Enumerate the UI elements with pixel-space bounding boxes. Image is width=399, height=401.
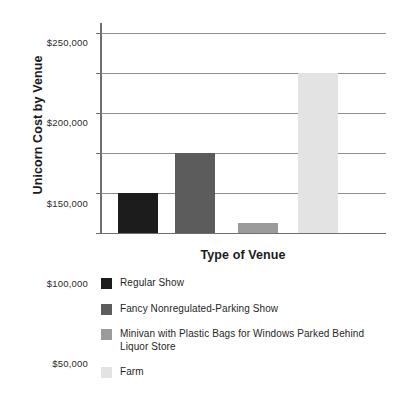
y-axis-tick-label: $100,000 <box>47 277 88 288</box>
legend-item-label: Fancy Nonregulated-Parking Show <box>120 303 278 316</box>
y-axis-tick-label: $250,000 <box>47 37 88 48</box>
bar <box>298 73 338 233</box>
bar <box>238 223 278 233</box>
x-axis-line <box>99 233 386 235</box>
y-axis-tick: $200,000 <box>96 73 101 74</box>
y-axis-tick: $250,000 <box>96 33 101 34</box>
legend-item[interactable]: Fancy Nonregulated-Parking Show <box>101 303 391 316</box>
x-axis-title: Type of Venue <box>101 248 385 262</box>
bar <box>118 193 158 233</box>
chart-page: Unicorn Cost by Venue $250,000$200,000$1… <box>0 0 399 401</box>
legend-swatch <box>101 329 112 340</box>
legend-item[interactable]: Farm <box>101 366 391 379</box>
legend-item[interactable]: Regular Show <box>101 277 391 290</box>
bar-chart: Unicorn Cost by Venue $250,000$200,000$1… <box>0 0 399 270</box>
gridline <box>101 113 386 114</box>
legend-item-label: Minivan with Plastic Bags for Windows Pa… <box>120 328 391 353</box>
y-axis-tick: $100,000 <box>96 153 101 154</box>
gridline <box>101 73 386 74</box>
gridline <box>101 33 386 34</box>
plot-area: $250,000$200,000$150,000$100,000$50,0000 <box>101 23 386 233</box>
y-axis-tick-label: $50,000 <box>52 357 88 368</box>
legend-item-label: Farm <box>120 366 144 379</box>
y-axis-tick-label: $200,000 <box>47 117 88 128</box>
legend-item-label: Regular Show <box>120 277 184 290</box>
legend-item[interactable]: Minivan with Plastic Bags for Windows Pa… <box>101 328 391 353</box>
legend-swatch <box>101 304 112 315</box>
legend-swatch <box>101 367 112 378</box>
y-axis-tick: $50,000 <box>96 193 101 194</box>
y-axis-tick-label: $150,000 <box>47 197 88 208</box>
legend-swatch <box>101 278 112 289</box>
bar <box>175 153 215 233</box>
y-axis-line <box>100 23 102 234</box>
gridline <box>101 153 386 154</box>
y-axis-tick: $150,000 <box>96 113 101 114</box>
chart-legend: Regular ShowFancy Nonregulated-Parking S… <box>101 277 391 392</box>
y-axis-title: Unicorn Cost by Venue <box>31 25 45 225</box>
